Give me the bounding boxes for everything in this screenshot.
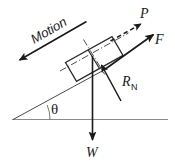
normal-reaction-label-rn: R	[121, 74, 131, 89]
rectangular-block	[66, 37, 124, 82]
incline-surface-line	[13, 70, 104, 120]
angle-arc	[47, 105, 50, 120]
applied-force-label-p: P	[139, 6, 149, 21]
block-centerline-along-incline	[60, 33, 129, 71]
weight-label-w: W	[86, 145, 99, 160]
normal-reaction-subscript-n: N	[131, 82, 138, 92]
angle-label-theta: θ	[51, 101, 58, 117]
motion-label: Motion	[28, 14, 69, 47]
block-centerline-perpendicular	[84, 40, 105, 75]
diagram-canvas: Motion P F R N W θ	[0, 0, 175, 163]
friction-force-label-f: F	[154, 32, 164, 47]
applied-force-vector-p	[111, 24, 142, 41]
inclined-plane-diagram: Motion P F R N W θ	[0, 0, 175, 163]
normal-reaction-vector-rn	[102, 65, 122, 101]
